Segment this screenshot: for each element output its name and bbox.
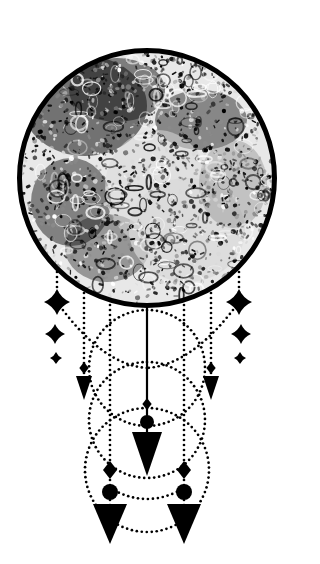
strand-left-outer xyxy=(83,302,86,305)
lower-web-circle xyxy=(141,407,144,410)
middle-web-circle xyxy=(88,422,91,425)
lower-web-circle xyxy=(205,451,208,454)
lower-web-circle xyxy=(207,461,210,464)
upper-left-swag xyxy=(78,328,81,331)
upper-right-swag xyxy=(172,360,175,363)
strand-left-outer xyxy=(83,322,86,325)
middle-web-circle xyxy=(143,477,146,480)
moon-speckle xyxy=(150,67,151,69)
upper-web-circle xyxy=(167,420,170,423)
lower-web-circle xyxy=(170,412,173,415)
lower-web-circle xyxy=(207,476,210,479)
strand-right-inner xyxy=(183,334,186,337)
upper-web-circle xyxy=(88,370,91,373)
middle-web-circle xyxy=(94,446,97,449)
strand-left-inner xyxy=(109,349,112,352)
upper-left-swag xyxy=(71,320,74,323)
moon-speckle xyxy=(93,78,97,80)
upper-left-swag xyxy=(140,366,143,369)
moon-speckle xyxy=(150,261,151,264)
upper-left-swag xyxy=(131,364,134,367)
upper-web-circle xyxy=(97,398,100,401)
upper-web-circle xyxy=(199,390,202,393)
upper-right-swag xyxy=(212,331,215,334)
upper-right-swag xyxy=(189,351,192,354)
strand-left-outer xyxy=(83,327,86,330)
middle-web-circle xyxy=(198,393,201,396)
middle-web-circle xyxy=(136,361,139,364)
strand-right-inner xyxy=(183,339,186,342)
strand-right-inner xyxy=(183,449,186,452)
strand-left-inner xyxy=(109,359,112,362)
strand-left-outer xyxy=(83,342,86,345)
middle-web-circle xyxy=(204,423,207,426)
lower-swag xyxy=(142,498,145,501)
strand-left-inner xyxy=(109,404,112,407)
lower-web-circle xyxy=(174,414,177,417)
lower-web-circle xyxy=(161,408,164,411)
lower-web-circle xyxy=(90,495,93,498)
upper-web-circle xyxy=(151,309,154,312)
middle-web-circle xyxy=(119,470,122,473)
strand-left-outer xyxy=(83,297,86,300)
upper-right-swag xyxy=(222,320,225,323)
middle-web-circle xyxy=(88,427,91,430)
lower-web-circle xyxy=(84,461,87,464)
strand-right-inner xyxy=(183,429,186,432)
lower-web-circle xyxy=(84,476,87,479)
lower-web-circle xyxy=(131,408,134,411)
strand-left-inner xyxy=(109,419,112,422)
upper-web-circle xyxy=(138,424,141,427)
lower-swag xyxy=(147,498,150,501)
upper-web-circle xyxy=(99,332,102,335)
lower-web-circle xyxy=(84,466,87,469)
moon-speckle xyxy=(107,150,110,152)
middle-web-circle xyxy=(123,472,126,475)
upper-left-swag xyxy=(92,342,95,345)
strand-left-outer xyxy=(83,307,86,310)
upper-left-swag xyxy=(104,351,107,354)
middle-web-circle xyxy=(203,408,206,411)
lower-web-circle xyxy=(92,437,95,440)
moon-speckle xyxy=(142,164,144,168)
lower-web-circle xyxy=(156,407,159,410)
upper-web-circle xyxy=(203,356,206,359)
upper-web-circle xyxy=(89,355,92,358)
strand-right-outer xyxy=(210,292,213,295)
lower-web-circle xyxy=(101,425,104,428)
moon-speckle xyxy=(235,197,237,202)
strand-right-outer xyxy=(210,332,213,335)
strand-right-inner xyxy=(183,439,186,442)
moon-speckle xyxy=(106,134,110,136)
strand-left-inner xyxy=(109,314,112,317)
strand-right-outer xyxy=(210,327,213,330)
upper-web-circle xyxy=(160,311,163,314)
strand-right-outer xyxy=(210,302,213,305)
strand-right-inner xyxy=(183,419,186,422)
lower-web-circle xyxy=(92,499,95,502)
upper-left-swag xyxy=(96,345,99,348)
middle-web-circle xyxy=(199,442,202,445)
middle-web-circle xyxy=(122,366,125,369)
lower-swag xyxy=(161,496,164,499)
lower-web-circle xyxy=(126,527,129,530)
upper-web-circle xyxy=(133,423,136,426)
strand-far-right xyxy=(238,271,241,274)
middle-web-circle xyxy=(179,371,182,374)
strand-left-inner xyxy=(109,334,112,337)
strand-right-outer xyxy=(210,352,213,355)
upper-web-circle xyxy=(190,329,193,332)
strand-right-outer xyxy=(210,337,213,340)
middle-web-circle xyxy=(200,398,203,401)
strand-right-outer xyxy=(210,347,213,350)
upper-web-circle xyxy=(196,337,199,340)
pendant-bottom-right-round-bead xyxy=(176,484,192,500)
strand-right-inner xyxy=(183,389,186,392)
upper-right-swag xyxy=(167,362,170,365)
lower-swag xyxy=(127,495,130,498)
middle-web-circle xyxy=(204,418,207,421)
upper-web-circle xyxy=(122,314,125,317)
upper-right-swag xyxy=(197,345,200,348)
strand-right-inner xyxy=(183,374,186,377)
strand-right-inner xyxy=(183,404,186,407)
